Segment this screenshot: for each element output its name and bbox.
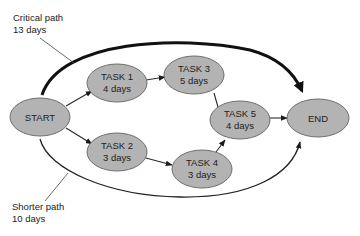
node-task1-duration: 4 days xyxy=(103,83,131,94)
node-end: END xyxy=(287,99,349,137)
node-task3-label: TASK 3 xyxy=(178,63,210,74)
shorter-path-arc xyxy=(40,139,300,197)
edge-start-task2 xyxy=(66,128,92,144)
node-task2: TASK 2 3 days xyxy=(87,133,147,171)
critical-path-days: 13 days xyxy=(13,24,47,35)
node-start: START xyxy=(10,98,70,136)
node-task2-label: TASK 2 xyxy=(101,140,133,151)
critical-path-label: Critical path xyxy=(13,12,63,23)
node-task3-duration: 5 days xyxy=(180,75,208,86)
edge-task1-task3 xyxy=(146,77,165,80)
node-task4: TASK 4 3 days xyxy=(172,150,232,188)
node-task5: TASK 5 4 days xyxy=(210,101,270,139)
edge-task2-task4 xyxy=(146,158,172,165)
node-task4-label: TASK 4 xyxy=(186,157,218,168)
node-end-label: END xyxy=(308,113,328,124)
shorter-path-label: Shorter path xyxy=(12,201,64,212)
node-task5-duration: 4 days xyxy=(226,120,254,131)
critical-path-leader xyxy=(40,38,74,63)
node-task1: TASK 1 4 days xyxy=(87,64,147,102)
node-task5-label: TASK 5 xyxy=(224,108,256,119)
node-start-label: START xyxy=(25,112,55,123)
node-task3: TASK 3 5 days xyxy=(164,56,224,94)
shorter-path-days: 10 days xyxy=(12,213,46,224)
edge-start-task1 xyxy=(66,91,92,106)
shorter-path-leader xyxy=(45,173,68,201)
node-task2-duration: 3 days xyxy=(103,152,131,163)
node-task1-label: TASK 1 xyxy=(101,71,133,82)
node-task4-duration: 3 days xyxy=(188,169,216,180)
critical-path-diagram: Critical path 13 days Shorter path 10 da… xyxy=(0,0,360,236)
edge-task4-task5 xyxy=(216,140,225,152)
